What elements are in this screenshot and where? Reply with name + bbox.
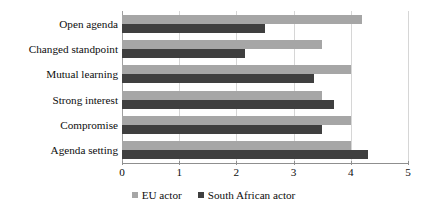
value-axis-baseline [122, 163, 409, 164]
legend-label: EU actor [142, 189, 182, 201]
tick-label: 0 [109, 165, 135, 179]
bar-group [122, 91, 408, 109]
category-label: Compromise [0, 119, 118, 131]
tick-label: 3 [281, 165, 307, 179]
tick-label: 4 [338, 165, 364, 179]
tick-label: 1 [166, 165, 192, 179]
bar-south-african-actor [122, 24, 265, 33]
category-label: Changed standpoint [0, 43, 118, 55]
bar-south-african-actor [122, 100, 334, 109]
bar-eu-actor [122, 15, 362, 24]
bar-group [122, 65, 408, 83]
value-axis: 012345 [0, 165, 427, 181]
square-marker [132, 192, 138, 198]
square-marker [198, 192, 204, 198]
bar-eu-actor [122, 116, 351, 125]
gridlines [122, 11, 408, 163]
gridline-4 [351, 11, 352, 163]
category-label: Mutual learning [0, 68, 118, 80]
legend-entry: South African actor [198, 189, 296, 201]
bar-south-african-actor [122, 125, 322, 134]
chart-legend: EU actorSouth African actor [0, 186, 427, 204]
category-label: Strong interest [0, 94, 118, 106]
bar-chart: Open agendaChanged standpointMutual lear… [0, 0, 427, 208]
plot-area [122, 11, 408, 163]
legend-label: South African actor [208, 189, 296, 201]
bar-group [122, 116, 408, 134]
category-label: Agenda setting [0, 144, 118, 156]
bar-eu-actor [122, 40, 322, 49]
bar-south-african-actor [122, 49, 245, 58]
gridline-1 [179, 11, 180, 163]
category-label: Open agenda [0, 18, 118, 30]
bar-south-african-actor [122, 74, 314, 83]
category-axis: Open agendaChanged standpointMutual lear… [0, 11, 118, 163]
bar-group [122, 141, 408, 159]
bar-eu-actor [122, 91, 322, 100]
gridline-0 [122, 11, 123, 163]
tick-label: 2 [223, 165, 249, 179]
legend-entry: EU actor [132, 189, 182, 201]
tick-label: 5 [395, 165, 421, 179]
bar-eu-actor [122, 65, 351, 74]
gridline-2 [236, 11, 237, 163]
gridline-5 [408, 11, 409, 163]
bar-south-african-actor [122, 150, 368, 159]
bar-group [122, 40, 408, 58]
bar-group [122, 15, 408, 33]
gridline-3 [294, 11, 295, 163]
bar-eu-actor [122, 141, 351, 150]
